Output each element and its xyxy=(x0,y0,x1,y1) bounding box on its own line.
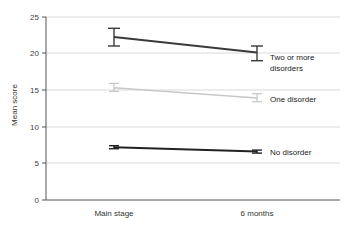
chart-background xyxy=(0,0,348,232)
x-category-label-6-months: 6 months xyxy=(241,209,274,218)
y-tick-label-15: 15 xyxy=(30,86,39,95)
series-label-two-or-more-line2: disorders xyxy=(270,64,303,73)
series-label-no-disorder: No disorder xyxy=(270,148,312,157)
chart-container: 25 20 15 10 5 0 Mean score Main stage 6 … xyxy=(0,0,348,232)
y-tick-label-20: 20 xyxy=(30,49,39,58)
y-tick-label-5: 5 xyxy=(35,159,40,168)
series-label-two-or-more-line1: Two or more xyxy=(270,53,315,62)
series-label-one-disorder: One disorder xyxy=(270,95,317,104)
y-tick-label-25: 25 xyxy=(30,13,39,22)
x-category-label-main-stage: Main stage xyxy=(94,209,134,218)
y-axis-title: Mean score xyxy=(10,84,19,126)
line-chart-with-error-bars: 25 20 15 10 5 0 Mean score Main stage 6 … xyxy=(0,0,348,232)
y-tick-label-10: 10 xyxy=(30,123,39,132)
y-tick-label-0: 0 xyxy=(35,196,40,205)
